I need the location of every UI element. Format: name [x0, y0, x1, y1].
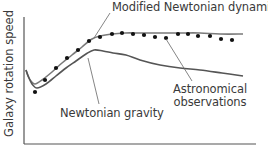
observation-point [110, 32, 114, 36]
chart-canvas [0, 0, 268, 151]
axes [24, 17, 256, 144]
observation-point [98, 35, 102, 39]
observation-point [120, 31, 124, 35]
observation-point [33, 90, 37, 94]
obs-leader-line [166, 39, 192, 81]
newton-label: Newtonian gravity [60, 107, 164, 120]
observation-point [196, 34, 200, 38]
observation-point [43, 78, 47, 82]
observation-point [153, 35, 157, 39]
observations-label: Astronomical observations [170, 83, 250, 109]
observation-point [230, 38, 234, 42]
observation-point [219, 37, 223, 41]
observation-point [142, 33, 146, 37]
observation-point [65, 56, 69, 60]
newton-leader-line [88, 58, 99, 104]
mond-label: Modified Newtonian dynamics [112, 1, 268, 14]
observation-point [176, 32, 180, 36]
series-lines [26, 33, 243, 88]
observation-point [208, 34, 212, 38]
y-axis-label: Galaxy rotation speed [2, 23, 16, 137]
observation-point [186, 32, 190, 36]
observation-point [131, 32, 135, 36]
observation-point [54, 66, 58, 70]
observation-point [76, 48, 80, 52]
observation-point [87, 39, 91, 43]
observations-label-line2: observations [170, 96, 250, 109]
